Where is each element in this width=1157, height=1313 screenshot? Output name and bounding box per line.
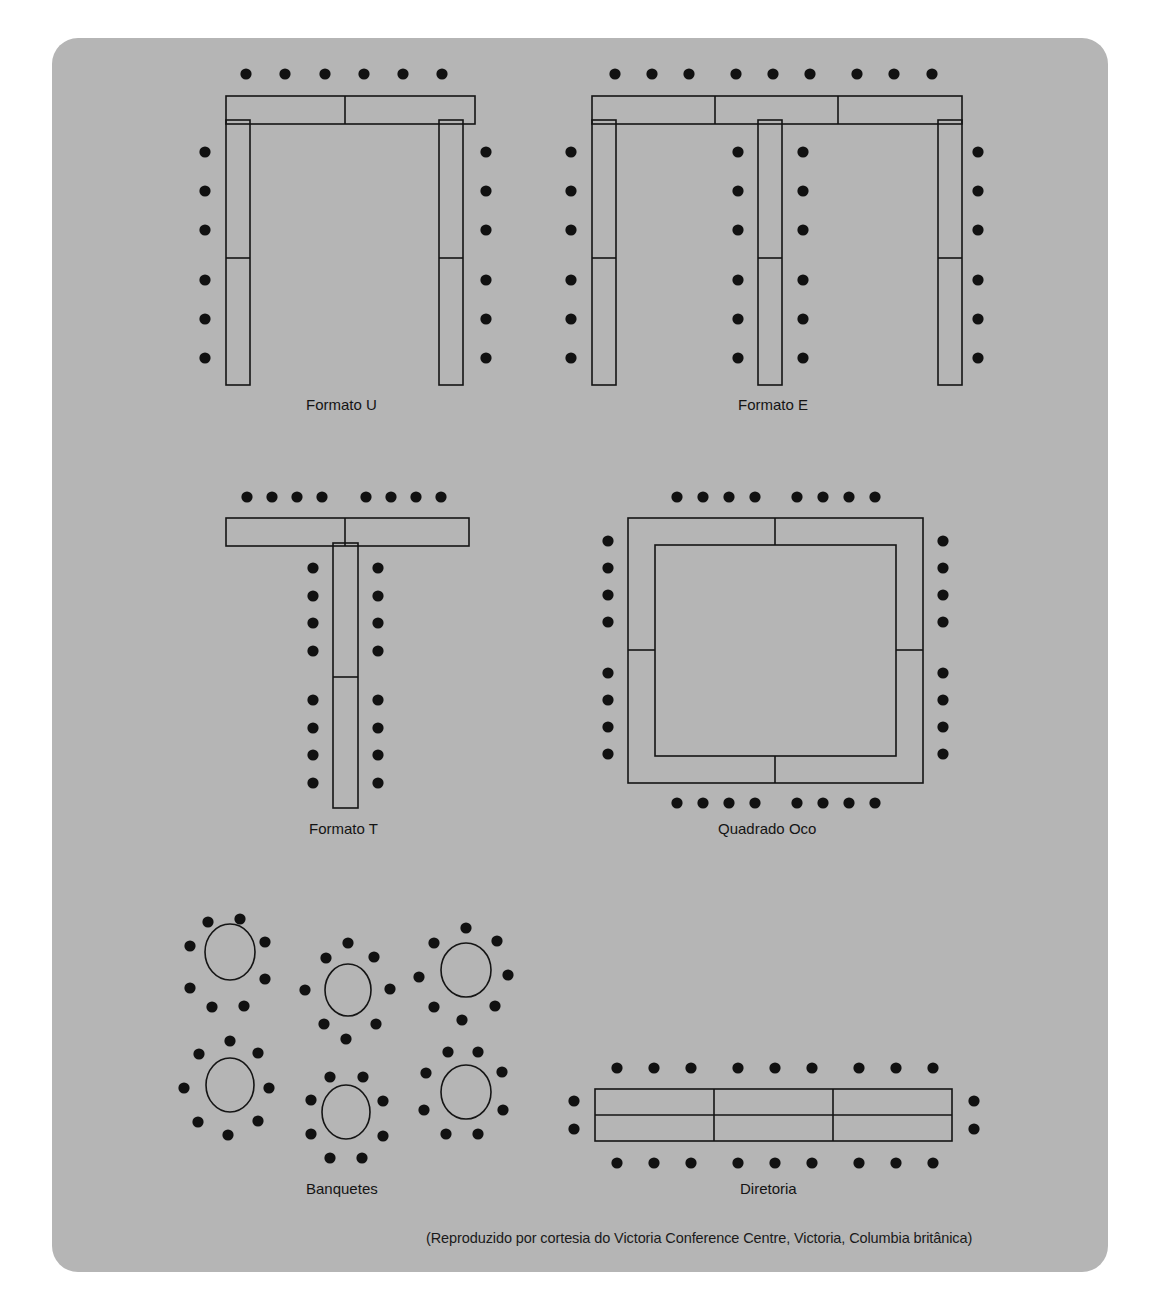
label-formato-e: Formato E bbox=[738, 396, 808, 413]
label-diretoria: Diretoria bbox=[740, 1180, 797, 1197]
seats-formato-e bbox=[565, 68, 983, 363]
label-formato-t: Formato T bbox=[309, 820, 378, 837]
label-banquetes: Banquetes bbox=[306, 1180, 378, 1197]
diagram-page: Formato U Formato E Formato T Quadrado O… bbox=[0, 0, 1157, 1313]
diagram-banquetes bbox=[205, 924, 491, 1139]
diagram-formato-e bbox=[592, 96, 962, 385]
seats-formato-t bbox=[241, 491, 446, 788]
diagram-diretoria bbox=[595, 1089, 952, 1141]
diagram-formato-t bbox=[226, 518, 469, 808]
label-quadrado-oco: Quadrado Oco bbox=[718, 820, 816, 837]
source-caption: (Reproduzido por cortesia do Victoria Co… bbox=[426, 1230, 1086, 1246]
diagram-formato-u bbox=[226, 96, 475, 385]
label-formato-u: Formato U bbox=[306, 396, 377, 413]
room-layout-illustrations bbox=[0, 0, 1157, 1313]
diagram-quadrado-oco bbox=[628, 518, 923, 783]
seats-banquetes bbox=[178, 913, 513, 1163]
